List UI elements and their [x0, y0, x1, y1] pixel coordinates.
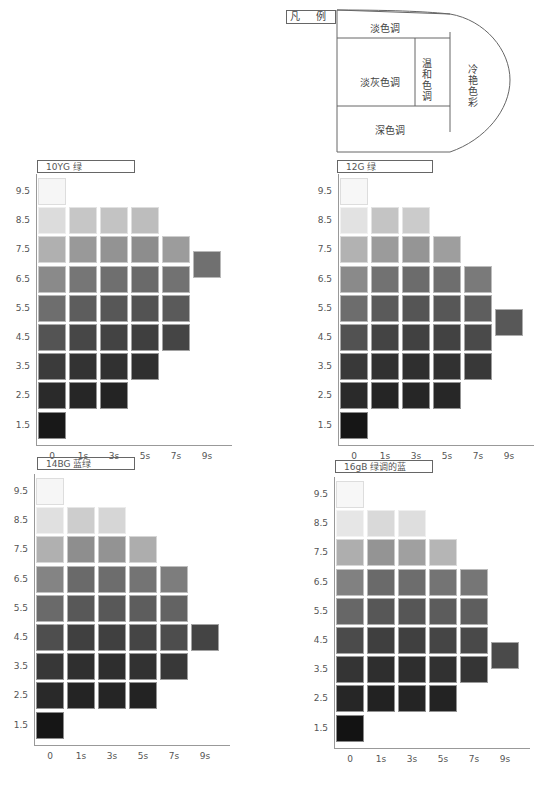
color-swatch — [100, 324, 128, 351]
color-swatch — [100, 236, 128, 263]
color-swatch — [371, 266, 399, 293]
y-tick-label: 7.5 — [306, 244, 332, 254]
y-tick-label: 5.5 — [302, 606, 328, 616]
color-swatch — [336, 539, 364, 566]
color-swatch — [131, 324, 159, 351]
y-tick-label: 1.5 — [4, 420, 30, 430]
x-tick-label: 7s — [463, 451, 493, 461]
color-swatch — [69, 266, 97, 293]
color-swatch — [371, 207, 399, 234]
color-swatch — [131, 295, 159, 322]
y-tick-label: 3.5 — [306, 361, 332, 371]
color-swatch — [162, 295, 190, 322]
y-tick-label: 6.5 — [306, 274, 332, 284]
color-swatch-vivid — [193, 251, 221, 278]
color-swatch — [460, 627, 488, 654]
y-tick-label: 3.5 — [2, 661, 28, 671]
y-tick-label: 1.5 — [306, 420, 332, 430]
color-swatch — [98, 624, 126, 651]
color-swatch — [69, 295, 97, 322]
color-swatch — [98, 566, 126, 593]
x-axis — [338, 445, 534, 446]
color-swatch — [429, 627, 457, 654]
color-swatch — [433, 266, 461, 293]
color-swatch — [67, 566, 95, 593]
color-swatch — [371, 353, 399, 380]
color-swatch — [460, 569, 488, 596]
color-swatch — [340, 207, 368, 234]
x-tick-label: 9s — [190, 751, 220, 761]
color-swatch — [402, 382, 430, 409]
color-swatch — [36, 566, 64, 593]
color-swatch — [460, 656, 488, 683]
x-tick-label: 7s — [459, 754, 489, 764]
color-swatch — [100, 266, 128, 293]
legend-diagram — [280, 0, 539, 160]
color-swatch — [464, 324, 492, 351]
color-swatch — [38, 382, 66, 409]
color-swatch — [36, 712, 64, 739]
color-swatch — [131, 353, 159, 380]
y-tick-label: 6.5 — [4, 274, 30, 284]
color-swatch — [340, 266, 368, 293]
color-swatch — [367, 598, 395, 625]
x-tick-label: 7s — [161, 451, 191, 461]
y-tick-label: 8.5 — [302, 518, 328, 528]
color-swatch — [129, 624, 157, 651]
color-swatch-vivid — [495, 309, 523, 336]
color-swatch — [100, 353, 128, 380]
color-swatch — [398, 510, 426, 537]
color-swatch — [129, 682, 157, 709]
color-swatch — [38, 412, 66, 439]
color-swatch — [38, 324, 66, 351]
color-swatch — [36, 478, 64, 505]
color-swatch — [67, 682, 95, 709]
y-axis — [36, 174, 37, 445]
color-swatch — [131, 236, 159, 263]
color-swatch — [371, 382, 399, 409]
x-tick-label: 3s — [97, 751, 127, 761]
x-axis — [334, 748, 530, 749]
color-swatch — [367, 627, 395, 654]
x-tick-label: 9s — [490, 754, 520, 764]
color-swatch — [38, 236, 66, 263]
y-axis — [338, 174, 339, 445]
y-tick-label: 7.5 — [2, 544, 28, 554]
legend-region-bottom: 深色调 — [375, 122, 405, 137]
color-swatch — [100, 382, 128, 409]
color-swatch — [98, 595, 126, 622]
y-tick-label: 9.5 — [302, 489, 328, 499]
y-tick-label: 4.5 — [302, 635, 328, 645]
x-tick-label: 9s — [494, 451, 524, 461]
color-swatch — [336, 510, 364, 537]
color-swatch — [98, 682, 126, 709]
color-swatch — [38, 353, 66, 380]
color-swatch — [69, 207, 97, 234]
x-tick-label: 0 — [35, 751, 65, 761]
color-swatch — [98, 536, 126, 563]
y-tick-label: 1.5 — [302, 723, 328, 733]
color-swatch — [36, 536, 64, 563]
color-swatch — [131, 207, 159, 234]
y-tick-label: 3.5 — [4, 361, 30, 371]
color-swatch — [402, 353, 430, 380]
color-swatch — [67, 624, 95, 651]
legend-region-middle-left: 淡灰色调 — [360, 74, 400, 89]
color-swatch — [69, 324, 97, 351]
y-tick-label: 1.5 — [2, 720, 28, 730]
x-tick-label: 7s — [159, 751, 189, 761]
x-tick-label: 5s — [432, 451, 462, 461]
color-swatch — [433, 236, 461, 263]
color-swatch — [367, 656, 395, 683]
panel-title: 14BG 蓝绿 — [37, 457, 135, 470]
color-swatch — [398, 569, 426, 596]
legend-region-top: 淡色调 — [370, 20, 400, 35]
y-tick-label: 8.5 — [306, 215, 332, 225]
color-swatch — [336, 598, 364, 625]
color-swatch — [69, 382, 97, 409]
color-swatch — [100, 207, 128, 234]
x-tick-label: 3s — [397, 754, 427, 764]
color-swatch — [367, 539, 395, 566]
color-swatch — [336, 715, 364, 742]
x-tick-label: 5s — [128, 751, 158, 761]
